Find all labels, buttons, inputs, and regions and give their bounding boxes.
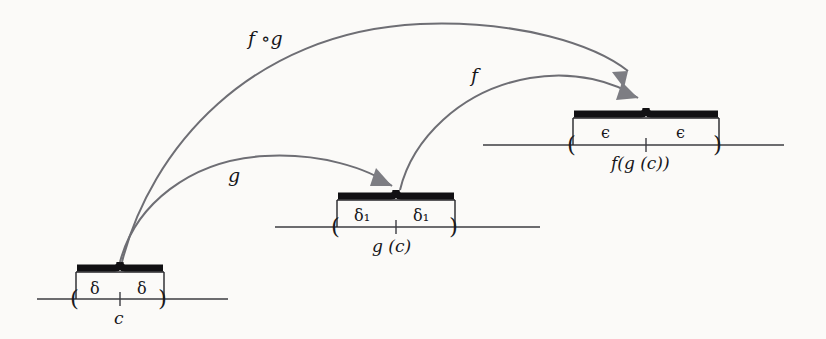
f-arrowhead xyxy=(616,82,638,100)
composition-arrow-label: f ∘g xyxy=(248,27,283,49)
codomain-close-paren: ) xyxy=(713,131,722,157)
epsilon-delta-composition-figure: ( ) ( ) ( ) δ δ δ₁ δ₁ ϵ ϵ c g (c) f(g (c… xyxy=(0,0,826,339)
codomain-left-epsilon-label: ϵ xyxy=(601,123,610,142)
domain-number-line xyxy=(37,262,228,306)
domain-center-label: c xyxy=(114,308,124,328)
domain-right-delta-label: δ xyxy=(137,279,147,298)
intermediate-left-delta1-label: δ₁ xyxy=(354,206,370,225)
intermediate-thick-brace xyxy=(338,190,454,196)
intermediate-open-paren: ( xyxy=(331,213,340,239)
composition-arrow-curve xyxy=(122,24,628,262)
intermediate-close-paren: ) xyxy=(449,213,458,239)
g-arrowhead xyxy=(370,168,392,186)
codomain-thick-brace xyxy=(574,108,718,114)
composition-arrow xyxy=(122,24,628,262)
domain-left-delta-label: δ xyxy=(90,279,100,298)
codomain-number-line xyxy=(483,108,784,152)
codomain-center-label: f(g (c)) xyxy=(611,153,670,173)
figure-canvas xyxy=(0,0,826,339)
domain-close-paren: ) xyxy=(158,285,167,311)
g-arrow-label: g xyxy=(228,164,240,186)
intermediate-right-delta1-label: δ₁ xyxy=(413,206,429,225)
codomain-open-paren: ( xyxy=(567,131,576,157)
f-arrow-label: f xyxy=(471,64,478,86)
domain-open-paren: ( xyxy=(70,285,79,311)
codomain-right-epsilon-label: ϵ xyxy=(676,123,685,142)
domain-thick-brace xyxy=(77,262,163,268)
intermediate-number-line xyxy=(275,190,540,234)
intermediate-center-label: g (c) xyxy=(372,236,411,256)
